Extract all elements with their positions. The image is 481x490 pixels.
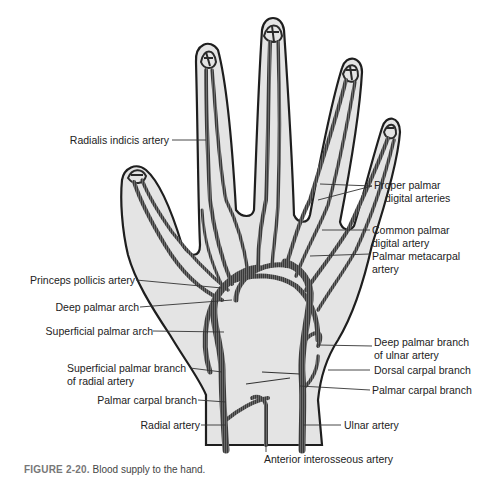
figure-caption-text: Blood supply to the hand.	[93, 464, 206, 475]
label-radial-artery: Radial artery	[140, 419, 200, 432]
label-common-palmar-digital-artery-line2: digital artery	[372, 237, 429, 250]
figure-caption: FIGURE 2-20. Blood supply to the hand.	[24, 464, 205, 475]
label-palmar-carpal-branch-right: Palmar carpal branch	[372, 384, 472, 397]
label-deep-palmar-branch-ulnar-line1: Deep palmar branch	[374, 336, 469, 349]
label-proper-palmar-digital-arteries-line2: digital arteries	[385, 192, 450, 205]
label-superficial-palmar-branch-radial-line2: of radial artery	[67, 375, 134, 388]
figure-number: FIGURE 2-20.	[24, 464, 90, 475]
label-proper-palmar-digital-arteries-line1: Proper palmar	[374, 179, 441, 192]
label-palmar-metacarpal-artery-line1: Palmar metacarpal	[372, 250, 460, 263]
label-princeps-pollicis-artery: Princeps pollicis artery	[30, 274, 135, 287]
label-dorsal-carpal-branch: Dorsal carpal branch	[374, 364, 471, 377]
label-palmar-metacarpal-artery-line2: artery	[372, 263, 399, 276]
label-deep-palmar-branch-ulnar-line2: of ulnar artery	[374, 349, 439, 362]
label-superficial-palmar-arch: Superficial palmar arch	[46, 325, 153, 338]
label-radialis-indicis-artery: Radialis indicis artery	[70, 134, 169, 147]
label-superficial-palmar-branch-radial-line1: Superficial palmar branch	[67, 362, 186, 375]
label-anterior-interosseous-artery: Anterior interosseous artery	[264, 453, 393, 466]
label-ulnar-artery: Ulnar artery	[344, 419, 399, 432]
label-deep-palmar-arch: Deep palmar arch	[56, 301, 139, 314]
label-common-palmar-digital-artery-line1: Common palmar	[372, 224, 450, 237]
label-palmar-carpal-branch-left: Palmar carpal branch	[97, 394, 197, 407]
